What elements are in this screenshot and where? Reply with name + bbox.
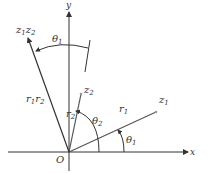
r2-label: r2 (66, 108, 76, 121)
theta1-bottom-label: θ1 (126, 134, 137, 147)
z2-extension-tick (85, 40, 90, 72)
r1-label: r1 (119, 103, 128, 116)
z1-label: z1 (158, 94, 169, 107)
vector-z2 (69, 94, 81, 152)
vector-z1 (69, 112, 156, 152)
z1z2-label: z1z2 (15, 24, 36, 37)
r1r2-label: r1r2 (26, 93, 45, 106)
z2-label: z2 (83, 84, 94, 97)
theta1-bottom-arc (118, 130, 124, 152)
complex-multiplication-diagram: y x O z1z2 θ1 z2 z1 r1r2 r2 r1 θ2 θ1 (0, 0, 207, 173)
vector-z1z2 (28, 38, 69, 152)
origin-label: O (56, 154, 64, 165)
theta1-top-label: θ1 (52, 33, 63, 46)
x-axis-label: x (190, 147, 195, 157)
y-axis-label: y (65, 0, 72, 10)
